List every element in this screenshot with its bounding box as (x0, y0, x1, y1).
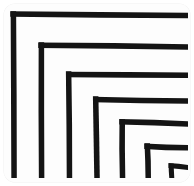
nested-corners-figure (4, 4, 190, 182)
artwork-canvas (0, 0, 194, 186)
corner-2-vertical (38, 42, 44, 178)
corner-3-vertical (66, 71, 72, 178)
artwork-card (4, 4, 190, 182)
corner-7-vertical (169, 164, 175, 179)
corner-6-vertical (145, 143, 152, 178)
corner-1-vertical (11, 11, 17, 178)
corner-3-horizontal (66, 72, 188, 78)
corner-5-vertical (119, 119, 125, 178)
